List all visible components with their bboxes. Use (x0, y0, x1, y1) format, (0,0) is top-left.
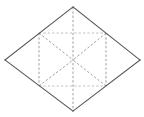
geometry-figure-canvas: Rhombus subdivided into triangles (0, 0, 144, 117)
rhombus-face (5, 7, 140, 111)
